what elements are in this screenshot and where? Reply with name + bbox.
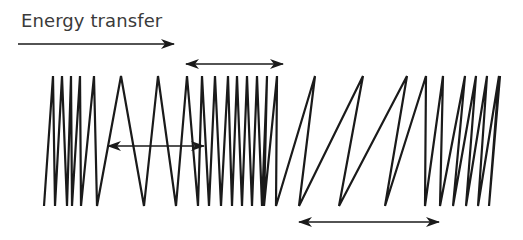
longitudinal-wave-diagram <box>0 0 523 240</box>
compression-wave-zigzag <box>44 76 500 206</box>
